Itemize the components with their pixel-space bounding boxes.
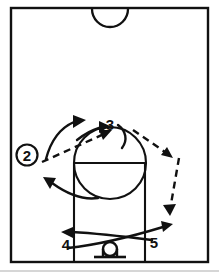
- player-5-label: 5: [150, 234, 158, 251]
- player-3-label: 3: [106, 116, 114, 133]
- player-2-label: 2: [23, 147, 31, 164]
- player-4-label: 4: [62, 236, 71, 253]
- basketball-play-diagram: 2 3 4 5: [0, 0, 219, 277]
- player-token-3[interactable]: 3: [106, 116, 114, 133]
- player-token-4[interactable]: 4: [62, 236, 71, 253]
- court-svg: 2 3 4 5: [0, 0, 219, 277]
- player-token-5[interactable]: 5: [150, 234, 158, 251]
- court-boundary: [11, 8, 208, 262]
